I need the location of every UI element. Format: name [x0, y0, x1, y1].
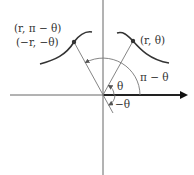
label-point-left-bottom: (−r, −θ): [16, 36, 59, 48]
label-angle-theta: θ: [117, 80, 123, 92]
label-angle-neg-theta: −θ: [115, 98, 130, 110]
arc-theta: [109, 86, 115, 96]
label-angle-pi-minus-theta: π − θ: [140, 71, 169, 83]
point-r-theta: [131, 39, 135, 43]
point-neg-r-neg-theta: [72, 40, 76, 44]
ray-pi-minus-theta: [74, 42, 113, 113]
label-point-left-top: (r, π − θ): [14, 22, 61, 34]
polar-symmetry-diagram: (r, θ) (r, π − θ) (−r, −θ) θ π − θ −θ: [0, 0, 194, 175]
label-point-right: (r, θ): [140, 34, 165, 46]
